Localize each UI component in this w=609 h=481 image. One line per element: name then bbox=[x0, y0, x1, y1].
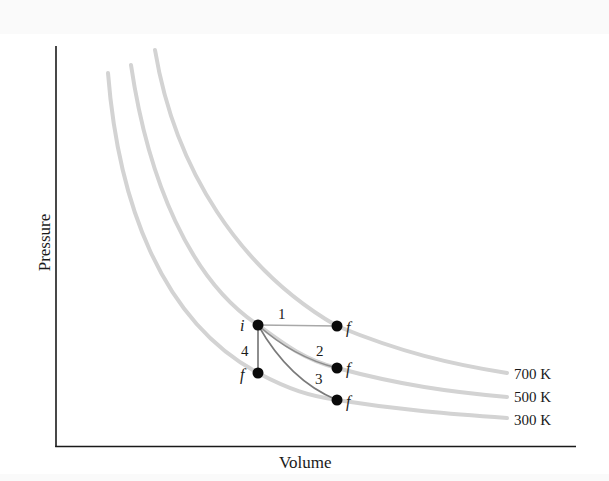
initial-point bbox=[253, 320, 264, 331]
path-label-1: 1 bbox=[278, 307, 286, 322]
isotherm-700k bbox=[155, 50, 507, 373]
isotherm-label-300k: 300 K bbox=[514, 413, 551, 428]
isotherm-label-700k: 700 K bbox=[514, 367, 551, 382]
y-axis-label: Pressure bbox=[36, 205, 53, 281]
final-point-3 bbox=[332, 395, 343, 406]
final-state-label-2: f bbox=[346, 361, 350, 377]
isotherm-label-500k: 500 K bbox=[514, 390, 551, 405]
final-state-label-4: f bbox=[240, 367, 244, 383]
final-point-4 bbox=[253, 368, 264, 379]
initial-state-label: i bbox=[240, 318, 244, 334]
final-point-1 bbox=[332, 321, 343, 332]
isotherm-300k bbox=[108, 73, 507, 418]
path-label-2: 2 bbox=[316, 344, 324, 359]
process-path-1 bbox=[258, 325, 337, 326]
pv-diagram bbox=[0, 0, 609, 481]
final-state-label-3: f bbox=[346, 394, 350, 410]
final-point-2 bbox=[332, 363, 343, 374]
path-label-4: 4 bbox=[241, 344, 249, 359]
x-axis-label: Volume bbox=[279, 454, 332, 471]
final-state-label-1: f bbox=[346, 320, 350, 336]
path-label-3: 3 bbox=[315, 372, 323, 387]
